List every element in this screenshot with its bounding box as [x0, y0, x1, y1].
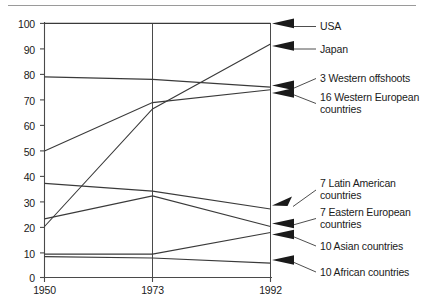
series-label-offshoots: 3 Western offshoots	[320, 73, 410, 85]
chart-canvas	[0, 0, 424, 301]
annotation-leaders	[293, 27, 316, 273]
leader-offshoots	[293, 79, 316, 89]
leader-latam	[293, 190, 316, 207]
series-label-asian: 10 Asian countries	[320, 241, 403, 253]
y-tick-label-50: 50	[11, 146, 35, 158]
leader-asian	[293, 237, 316, 247]
series-lines	[45, 23, 271, 263]
series-label-latam: 7 Latin American countries	[320, 178, 396, 201]
series-line-easteuro	[45, 196, 271, 227]
series-line-asian	[45, 233, 271, 255]
y-tick-label-90: 90	[11, 44, 35, 56]
y-tick-label-30: 30	[11, 197, 35, 209]
arrowhead-japan	[272, 41, 294, 51]
x-tick-label-1992: 1992	[251, 284, 291, 296]
y-tick-label-0: 0	[11, 272, 35, 284]
leader-african	[293, 262, 316, 272]
x-tick-label-1973: 1973	[133, 284, 173, 296]
leader-easteuro	[293, 219, 316, 226]
x-tick-label-1950: 1950	[25, 284, 65, 296]
y-tick-label-100: 100	[11, 18, 35, 30]
series-line-westeuro	[45, 90, 271, 151]
arrowhead-latam	[272, 197, 292, 207]
y-tick-label-10: 10	[11, 248, 35, 260]
y-tick-label-40: 40	[11, 171, 35, 183]
y-tick-marks	[40, 23, 45, 277]
y-tick-label-80: 80	[11, 69, 35, 81]
series-label-westeuro: 16 Western European countries	[320, 92, 419, 115]
leader-westeuro	[293, 95, 316, 104]
series-line-latam	[45, 183, 271, 209]
series-label-japan: Japan	[320, 44, 348, 56]
series-label-easteuro: 7 Eastern European countries	[320, 207, 411, 230]
chart-figure: 100 90 80 70 60 50 40 30 20 10 0 1950 19…	[0, 0, 424, 301]
series-line-offshoots	[45, 77, 271, 87]
axis-group	[40, 22, 272, 282]
arrowhead-offshoots	[272, 81, 294, 91]
series-line-african	[45, 257, 271, 264]
annotation-arrowheads	[272, 19, 294, 265]
arrowhead-westeuro	[272, 88, 294, 98]
y-tick-label-60: 60	[11, 120, 35, 132]
y-tick-label-70: 70	[11, 95, 35, 107]
arrowhead-usa	[272, 19, 294, 29]
series-label-usa: USA	[320, 21, 341, 33]
arrowhead-easteuro	[272, 219, 294, 229]
arrowhead-asian	[272, 230, 294, 240]
series-label-african: 10 African countries	[320, 267, 409, 279]
y-tick-label-20: 20	[11, 222, 35, 234]
x-tick-marks	[45, 278, 271, 283]
arrowhead-african	[272, 255, 294, 265]
